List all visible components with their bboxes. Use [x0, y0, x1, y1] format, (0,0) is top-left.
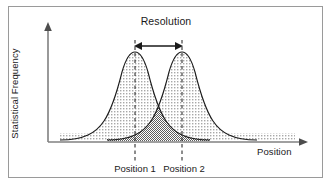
figure-root: Resolution Statistical Frequency Positio… [0, 0, 332, 186]
resolution-label: Resolution [0, 15, 332, 27]
x-axis-arrowhead [299, 138, 308, 146]
x-axis-label: Position [257, 146, 292, 157]
tick-label-position-2: Position 2 [146, 163, 222, 174]
resolution-arrow [134, 42, 183, 50]
y-axis-label: Statistical Frequency [9, 34, 20, 154]
resolution-chart [0, 0, 332, 186]
y-axis [44, 22, 52, 142]
